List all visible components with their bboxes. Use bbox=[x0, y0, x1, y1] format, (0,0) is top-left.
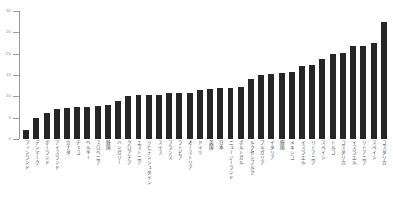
x-label-slot: スペイン bbox=[317, 140, 327, 202]
x-label-slot: カナダ bbox=[62, 140, 72, 202]
x-label-slot: スロベニア bbox=[93, 140, 103, 202]
bar-slot bbox=[246, 11, 256, 139]
bar bbox=[44, 113, 50, 139]
x-tick-label: 韓国 bbox=[279, 140, 284, 150]
bar bbox=[115, 101, 121, 139]
bar bbox=[136, 95, 142, 139]
x-label-slot: クロアチア bbox=[123, 140, 133, 202]
bar-slot bbox=[123, 11, 133, 139]
x-tick-label: ポーランド bbox=[44, 140, 49, 165]
bar-slot bbox=[31, 11, 41, 139]
x-tick-label: スペイン bbox=[320, 140, 325, 160]
bar bbox=[125, 96, 131, 139]
x-tick-label: イタリア bbox=[269, 140, 274, 160]
bar-slot bbox=[52, 11, 62, 139]
x-label-slot: メキシコ bbox=[287, 140, 297, 202]
x-tick-label: 韓国 bbox=[105, 140, 110, 150]
bar-slot bbox=[225, 11, 235, 139]
y-tick-label: 10 bbox=[6, 94, 11, 98]
x-label-slot: アイスランド bbox=[52, 140, 62, 202]
bar bbox=[95, 106, 101, 139]
bar-slot bbox=[72, 11, 82, 139]
x-label-slot: イスラエル bbox=[297, 140, 307, 202]
x-label-slot: ポルトガル bbox=[236, 140, 246, 202]
y-tick-label: 5 bbox=[9, 115, 11, 119]
bar bbox=[360, 46, 366, 139]
x-label-slot: イタリア bbox=[266, 140, 276, 202]
x-label-slot: チェコ bbox=[72, 140, 82, 202]
x-label-slot: リヒテンシュタイン bbox=[144, 140, 154, 202]
x-tick-label: ポルトガル bbox=[238, 140, 243, 165]
x-tick-label: フィンランド bbox=[24, 140, 29, 170]
bar bbox=[54, 109, 60, 139]
bar-slot bbox=[256, 11, 266, 139]
x-label-slot: 英国 bbox=[205, 140, 215, 202]
bars-container bbox=[19, 11, 391, 139]
x-tick-label: リヒテンシュタイン bbox=[146, 140, 151, 185]
bar bbox=[340, 53, 346, 139]
bar bbox=[166, 93, 172, 139]
x-tick-label: コスタリカ bbox=[381, 140, 386, 165]
bar bbox=[64, 108, 70, 139]
x-tick-label: カナダ bbox=[64, 140, 69, 155]
x-label-slot: デンマーク bbox=[31, 140, 41, 202]
bar-slot bbox=[379, 11, 389, 139]
x-tick-label: ルクセンブルク bbox=[248, 140, 253, 175]
bar bbox=[381, 22, 387, 139]
bar-slot bbox=[41, 11, 51, 139]
x-tick-label: チェコ bbox=[75, 140, 80, 155]
bar bbox=[319, 59, 325, 139]
bar bbox=[207, 89, 213, 139]
y-axis-ticks: 051015202530 bbox=[0, 0, 19, 139]
bar-slot bbox=[62, 11, 72, 139]
bar-chart: 051015202530 フィンランドデンマークポーランドアイスランドカナダチェ… bbox=[0, 0, 393, 203]
x-label-slot: エストニア bbox=[133, 140, 143, 202]
x-tick-label: スロベニア bbox=[95, 140, 100, 165]
bar bbox=[248, 79, 254, 139]
bar-slot bbox=[174, 11, 184, 139]
x-tick-label: イスラエル bbox=[299, 140, 304, 165]
x-label-slot: ラトビア bbox=[174, 140, 184, 202]
bar bbox=[279, 73, 285, 139]
x-tick-label: ドイツ bbox=[197, 140, 202, 155]
x-tick-label: アイスランド bbox=[54, 140, 59, 170]
x-tick-label: スペイン bbox=[371, 140, 376, 160]
x-tick-label: リトアニア bbox=[310, 140, 315, 165]
x-tick-label: フランス bbox=[167, 140, 172, 160]
bar-slot bbox=[307, 11, 317, 139]
bar bbox=[74, 107, 80, 139]
bar bbox=[238, 87, 244, 139]
x-tick-label: クロアチア bbox=[126, 140, 131, 165]
bar-slot bbox=[82, 11, 92, 139]
bar bbox=[330, 54, 336, 139]
x-tick-label: エストニア bbox=[136, 140, 141, 165]
bar-slot bbox=[144, 11, 154, 139]
x-label-slot: ブルガリア bbox=[256, 140, 266, 202]
bar bbox=[33, 118, 39, 139]
x-label-slot: 韓国 bbox=[276, 140, 286, 202]
bar bbox=[187, 93, 193, 139]
x-label-slot: トルコ bbox=[328, 140, 338, 202]
x-tick-label: 英国 bbox=[207, 140, 212, 150]
bar-slot bbox=[205, 11, 215, 139]
x-label-slot: フィンランド bbox=[21, 140, 31, 202]
bar-slot bbox=[154, 11, 164, 139]
x-tick-label: リトアニア bbox=[361, 140, 366, 165]
bar bbox=[176, 93, 182, 139]
x-tick-label: メキシコ bbox=[289, 140, 294, 160]
bar-slot bbox=[133, 11, 143, 139]
x-label-slot: スペイン bbox=[368, 140, 378, 202]
x-label-slot: コスタリカ bbox=[338, 140, 348, 202]
bar bbox=[228, 88, 234, 139]
bar-slot bbox=[328, 11, 338, 139]
x-tick-label: イスラエル bbox=[351, 140, 356, 165]
bar-slot bbox=[297, 11, 307, 139]
x-tick-label: 日本 bbox=[218, 140, 223, 150]
bar-slot bbox=[215, 11, 225, 139]
y-tick-label: 0 bbox=[9, 137, 11, 141]
bar-slot bbox=[21, 11, 31, 139]
bar-slot bbox=[368, 11, 378, 139]
y-tick-label: 20 bbox=[6, 51, 11, 55]
bar bbox=[371, 43, 377, 139]
x-tick-label: デンマーク bbox=[34, 140, 39, 165]
